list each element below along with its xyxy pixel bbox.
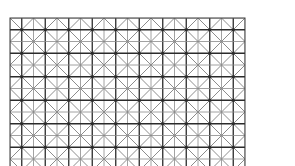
diagonal-line bbox=[169, 18, 294, 166]
lattice-node bbox=[114, 99, 117, 102]
lattice-node bbox=[91, 75, 94, 78]
lattice-node bbox=[20, 122, 23, 125]
lattice-node bbox=[208, 75, 211, 78]
lattice-node bbox=[44, 52, 47, 55]
lattice-node bbox=[185, 146, 188, 149]
lattice-node bbox=[67, 28, 70, 31]
lattice-node bbox=[67, 99, 70, 102]
diagonal-line bbox=[269, 18, 295, 166]
lattice-node bbox=[208, 52, 211, 55]
lattice-node bbox=[138, 75, 141, 78]
lattice-node bbox=[138, 28, 141, 31]
diagonal-line bbox=[198, 18, 294, 166]
lattice-node bbox=[185, 122, 188, 125]
lattice-node bbox=[232, 28, 235, 31]
lattice-node bbox=[138, 52, 141, 55]
lattice-node bbox=[114, 52, 117, 55]
lattice-node bbox=[232, 75, 235, 78]
lattice-node bbox=[91, 146, 94, 149]
lattice-node bbox=[208, 122, 211, 125]
lattice-node bbox=[114, 122, 117, 125]
lattice-node bbox=[91, 122, 94, 125]
diagonal-line bbox=[292, 18, 294, 166]
lattice-node bbox=[232, 99, 235, 102]
diagonal-line bbox=[0, 18, 151, 166]
lattice-node bbox=[232, 122, 235, 125]
lattice-node bbox=[208, 146, 211, 149]
lattice-node bbox=[161, 122, 164, 125]
diagonal-line bbox=[240, 18, 295, 166]
lattice-node bbox=[138, 146, 141, 149]
diagonal-line bbox=[0, 18, 86, 166]
lattice-node bbox=[67, 75, 70, 78]
lattice-node bbox=[44, 99, 47, 102]
lattice-node bbox=[67, 52, 70, 55]
lattice-node bbox=[20, 75, 23, 78]
diagonal-line bbox=[222, 18, 295, 166]
lattice-node bbox=[161, 99, 164, 102]
lattice-node bbox=[20, 146, 23, 149]
diagonal-line bbox=[287, 18, 295, 166]
diagonal-line bbox=[216, 18, 294, 166]
lattice-node bbox=[114, 146, 117, 149]
diagonal-line bbox=[0, 18, 110, 166]
lattice-node bbox=[161, 146, 164, 149]
diagonal-line bbox=[0, 18, 34, 166]
lattice-node bbox=[91, 28, 94, 31]
lattice-node bbox=[67, 122, 70, 125]
lattice-node bbox=[185, 99, 188, 102]
diagonal-line bbox=[175, 18, 295, 166]
lattice-node bbox=[20, 99, 23, 102]
lattice-node bbox=[208, 28, 211, 31]
diagonal-line bbox=[0, 18, 10, 166]
diagonal-line bbox=[263, 18, 294, 166]
lattice-node bbox=[185, 28, 188, 31]
lattice-node bbox=[232, 52, 235, 55]
lattice-node bbox=[161, 52, 164, 55]
diagonal-line bbox=[245, 18, 294, 166]
lattice-node bbox=[44, 75, 47, 78]
lattice-node bbox=[138, 99, 141, 102]
lattice-node bbox=[44, 122, 47, 125]
lattice-node bbox=[67, 146, 70, 149]
lattice-node bbox=[114, 75, 117, 78]
lattice-node bbox=[91, 52, 94, 55]
lattice-node bbox=[138, 122, 141, 125]
lattice-node bbox=[208, 99, 211, 102]
lattice-node bbox=[185, 52, 188, 55]
lattice-node bbox=[91, 99, 94, 102]
diagonal-line bbox=[0, 18, 157, 166]
lattice-node bbox=[114, 28, 117, 31]
diagonal-line bbox=[0, 18, 128, 166]
lattice-node bbox=[44, 28, 47, 31]
lattice-node bbox=[232, 146, 235, 149]
lattice-node bbox=[20, 28, 23, 31]
lattice-node bbox=[44, 146, 47, 149]
lattice-node bbox=[161, 75, 164, 78]
lattice-diagram bbox=[0, 0, 294, 166]
grid-lines bbox=[0, 18, 294, 166]
lattice-node bbox=[20, 52, 23, 55]
diagonal-line bbox=[0, 18, 133, 166]
lattice-node bbox=[185, 75, 188, 78]
diagonal-line bbox=[104, 18, 274, 166]
lattice-node bbox=[161, 28, 164, 31]
